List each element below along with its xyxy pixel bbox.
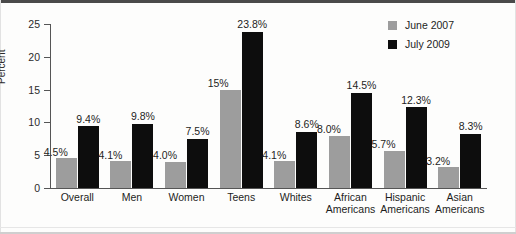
x-axis-label-men: Men	[105, 192, 160, 204]
x-axis-label-line: Americans	[432, 204, 487, 216]
x-axis-label-line: Teens	[214, 192, 269, 204]
y-axis-tick-label: 25	[14, 19, 40, 30]
bar-june-2007[interactable]	[165, 162, 186, 188]
bar-value-label: 8.3%	[459, 121, 483, 132]
y-axis-tick	[44, 188, 50, 189]
legend-swatch-icon	[388, 21, 397, 30]
bar-value-label: 14.5%	[347, 80, 377, 91]
bar-group: 8.0%14.5%	[329, 24, 372, 188]
x-axis-label-line: Americans	[323, 204, 378, 216]
bar-june-2007[interactable]	[329, 136, 350, 188]
bar-june-2007[interactable]	[110, 161, 131, 188]
bar-group: 4.1%8.6%	[274, 24, 317, 188]
bar-group: 4.0%7.5%	[165, 24, 208, 188]
x-axis-label-line: African	[323, 192, 378, 204]
x-axis-label-teens: Teens	[214, 192, 269, 204]
figure-border-bottom	[0, 232, 516, 234]
legend-label: June 2007	[405, 19, 454, 31]
x-axis-label-asian-americans: AsianAmericans	[432, 192, 487, 215]
x-axis-line	[50, 188, 487, 189]
y-axis-tick-label: 5	[14, 150, 40, 161]
x-axis-label-line: Overall	[50, 192, 105, 204]
y-axis-tick-label: 20	[14, 52, 40, 63]
bar-value-label: 15%	[208, 78, 229, 89]
bar-value-label: 3.2%	[426, 156, 450, 167]
y-axis-tick-label: 15	[14, 85, 40, 96]
bar-july-2009[interactable]	[242, 32, 263, 188]
legend-swatch-icon	[388, 40, 397, 49]
bar-value-label: 7.5%	[186, 126, 210, 137]
bar-value-label: 23.8%	[237, 19, 267, 30]
chart-figure: 2520151050 Percent 4.5%9.4%4.1%9.8%4.0%7…	[0, 0, 516, 234]
x-axis-label-women: Women	[159, 192, 214, 204]
x-axis-label-line: Hispanic	[378, 192, 433, 204]
bar-group: 4.1%9.8%	[110, 24, 153, 188]
bar-june-2007[interactable]	[384, 151, 405, 188]
bar-value-label: 12.3%	[401, 95, 431, 106]
x-axis-label-african-americans: AfricanAmericans	[323, 192, 378, 215]
bar-july-2009[interactable]	[187, 139, 208, 188]
bar-value-label: 8.6%	[295, 119, 319, 130]
legend-label: July 2009	[405, 38, 450, 50]
bar-group: 15%23.8%	[220, 24, 263, 188]
bar-value-label: 4.5%	[44, 147, 68, 158]
y-axis-title: Percent	[0, 50, 7, 84]
bar-value-label: 9.8%	[131, 111, 155, 122]
bar-july-2009[interactable]	[460, 134, 481, 188]
bar-june-2007[interactable]	[274, 161, 295, 188]
x-axis-label-line: Men	[105, 192, 160, 204]
bar-value-label: 4.1%	[262, 150, 286, 161]
x-axis-label-whites: Whites	[269, 192, 324, 204]
figure-border-inner-bottom	[0, 227, 516, 228]
bar-value-label: 4.1%	[98, 150, 122, 161]
x-axis-label-line: Asian	[432, 192, 487, 204]
x-axis-label-line: Americans	[378, 204, 433, 216]
x-axis-label-line: Women	[159, 192, 214, 204]
bar-value-label: 9.4%	[76, 114, 100, 125]
x-axis-label-line: Whites	[269, 192, 324, 204]
bar-june-2007[interactable]	[220, 90, 241, 188]
bar-group: 4.5%9.4%	[56, 24, 99, 188]
bar-value-label: 8.0%	[317, 124, 341, 135]
bar-july-2009[interactable]	[296, 132, 317, 188]
figure-border-top	[0, 0, 516, 3]
bar-value-label: 5.7%	[372, 139, 396, 150]
bar-july-2009[interactable]	[132, 124, 153, 188]
bar-july-2009[interactable]	[78, 126, 99, 188]
x-axis-label-hispanic-americans: HispanicAmericans	[378, 192, 433, 215]
bar-july-2009[interactable]	[406, 107, 427, 188]
bar-june-2007[interactable]	[438, 167, 459, 188]
x-axis-label-overall: Overall	[50, 192, 105, 204]
bar-july-2009[interactable]	[351, 93, 372, 188]
y-axis-tick-label: 10	[14, 117, 40, 128]
bar-june-2007[interactable]	[56, 158, 77, 188]
bar-value-label: 4.0%	[153, 150, 177, 161]
y-axis-tick-label: 0	[14, 183, 40, 194]
figure-border-left	[0, 0, 1, 234]
